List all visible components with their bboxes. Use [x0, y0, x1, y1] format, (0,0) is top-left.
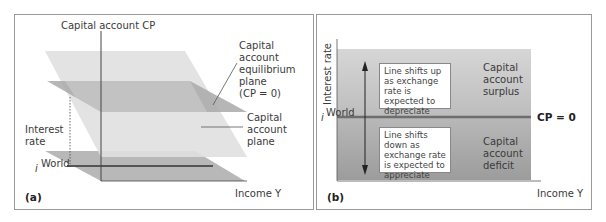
i-world-sup-b: World: [326, 107, 355, 118]
cp-axis-label: Capital account CP: [61, 20, 155, 31]
eq-label-4: plane: [239, 76, 267, 87]
panel-a-svg: Capital account CP Capital account equil…: [15, 15, 315, 211]
shift-down-box: Line shifts down as exchange rate is exp…: [379, 127, 451, 173]
eq-label-5: (CP = 0): [239, 88, 281, 99]
panel-b-label: (b): [327, 191, 344, 203]
i-world-symbol: i: [35, 163, 38, 174]
panel-a-label: (a): [25, 191, 42, 203]
interest-label-2: rate: [25, 136, 45, 147]
surplus-1: Capital: [483, 62, 518, 73]
x-axis-label: Income Y: [537, 188, 584, 199]
eq-label-1: Capital: [239, 40, 274, 51]
y-axis-label: Interest rate: [322, 43, 333, 105]
interest-label-1: Interest: [25, 124, 64, 135]
panel-b-2d-diagram: Interest rate i World CP = 0 Capital acc…: [316, 14, 592, 210]
plane-label-1: Capital: [247, 112, 282, 123]
income-axis-label: Income Y: [235, 188, 282, 199]
deficit-2: account: [483, 148, 523, 159]
leader-equilibrium: [213, 63, 237, 105]
i-world-sup: World: [41, 158, 70, 169]
i-world-symbol-b: i: [321, 112, 324, 123]
surplus-2: account: [483, 74, 523, 85]
eq-label-3: equilibrium: [239, 64, 296, 75]
deficit-1: Capital: [483, 136, 518, 147]
eq-label-2: account: [239, 52, 279, 63]
equilibrium-overlap: [65, 81, 207, 112]
panel-a-3d-diagram: Capital account CP Capital account equil…: [14, 14, 314, 210]
panel-b-svg: Interest rate i World CP = 0 Capital acc…: [317, 15, 593, 211]
cp-zero-label: CP = 0: [537, 111, 576, 123]
deficit-3: deficit: [483, 160, 514, 171]
plane-label-2: account: [247, 124, 287, 135]
surplus-3: surplus: [483, 86, 519, 97]
shift-up-box: Line shifts up as exchange rate is expec…: [379, 63, 451, 109]
plane-label-3: plane: [247, 136, 275, 147]
